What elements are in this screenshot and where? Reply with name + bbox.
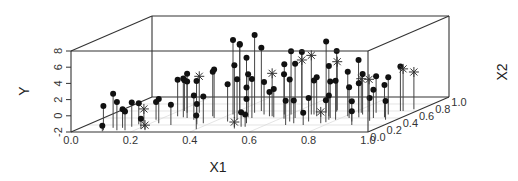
- point-dot-marker: [230, 37, 236, 43]
- point-star-marker: [398, 64, 408, 74]
- point-dot-marker: [381, 82, 387, 88]
- point-dot-marker: [249, 76, 255, 82]
- point-star-marker: [316, 107, 326, 117]
- point-dot-marker: [327, 79, 333, 85]
- point-dot-marker: [271, 86, 277, 92]
- point-dot-marker: [193, 112, 199, 118]
- point-star-marker: [229, 117, 239, 127]
- point-dot-marker: [314, 74, 320, 80]
- point-dot-marker: [333, 78, 339, 84]
- grid-line: [190, 97, 271, 132]
- point-dot-marker: [156, 96, 162, 102]
- point-dot-marker: [356, 80, 362, 86]
- point-dot-marker: [258, 45, 264, 51]
- y-axis-title: Y: [16, 86, 32, 96]
- point-dot-marker: [184, 79, 190, 85]
- point-dot-marker: [168, 102, 174, 108]
- point-star-marker: [267, 68, 277, 78]
- x2-tick-label: 0.6: [419, 110, 434, 122]
- y-tick-label: 8: [52, 48, 64, 54]
- point-dot-marker: [287, 76, 293, 82]
- y-tick-label: 6: [52, 64, 64, 70]
- point-dot-marker: [110, 91, 116, 97]
- point-star-marker: [140, 120, 150, 130]
- scatter3d-chart: -202468 0.00.20.40.60.81.0 0.00.20.40.60…: [0, 0, 518, 181]
- point-star-marker: [297, 55, 307, 65]
- point-dot-marker: [225, 81, 231, 87]
- point-dot-marker: [291, 98, 297, 104]
- point-dot-marker: [114, 99, 120, 105]
- point-dot-marker: [175, 77, 181, 83]
- point-dot-marker: [244, 96, 250, 102]
- point-dot-marker: [122, 109, 128, 115]
- x2-tick-label: 0.2: [387, 124, 402, 136]
- point-dot-marker: [237, 42, 243, 48]
- point-dot-marker: [306, 95, 312, 101]
- point-dot-marker: [356, 57, 362, 63]
- x1-axis-title: X1: [209, 159, 226, 175]
- y-tick-label: 2: [52, 97, 64, 103]
- point-star-marker: [332, 57, 342, 67]
- point-dot-marker: [191, 92, 197, 98]
- point-dot-marker: [349, 108, 355, 114]
- x2-axis-title: X2: [494, 63, 510, 80]
- point-dot-marker: [138, 116, 144, 122]
- point-dot-marker: [281, 61, 287, 67]
- x2-tick-label: 1.0: [451, 96, 466, 108]
- point-dot-marker: [245, 71, 251, 77]
- data-points: [99, 32, 419, 130]
- point-dot-marker: [345, 69, 351, 75]
- x1-tick-label: 0.2: [123, 134, 138, 146]
- point-dot-marker: [383, 98, 389, 104]
- point-dot-marker: [231, 62, 237, 68]
- x2-tick-label: 0.4: [403, 117, 418, 129]
- point-star-marker: [139, 104, 149, 114]
- y-tick-label: -2: [52, 127, 64, 137]
- y-tick-label: 0: [52, 113, 64, 119]
- x1-tick-label: 0.4: [182, 134, 197, 146]
- point-dot-marker: [244, 55, 250, 61]
- point-dot-marker: [360, 71, 366, 77]
- drop-lines: [102, 35, 414, 131]
- point-dot-marker: [373, 73, 379, 79]
- box-back-edges: [71, 16, 449, 132]
- point-dot-marker: [299, 49, 305, 55]
- point-dot-marker: [349, 98, 355, 104]
- point-dot-marker: [211, 66, 217, 72]
- point-dot-marker: [281, 71, 287, 77]
- point-dot-marker: [283, 98, 289, 104]
- point-dot-marker: [252, 32, 258, 38]
- point-dot-marker: [194, 101, 200, 107]
- point-dot-marker: [244, 84, 250, 90]
- point-dot-marker: [100, 103, 106, 109]
- point-dot-marker: [200, 94, 206, 100]
- point-dot-marker: [261, 79, 267, 85]
- point-dot-marker: [346, 84, 352, 90]
- point-dot-marker: [242, 112, 248, 118]
- point-dot-marker: [323, 38, 329, 44]
- x1-tick-label: 0.0: [63, 134, 78, 146]
- x1-axis: 0.00.20.40.60.81.0: [63, 134, 375, 146]
- box-edge: [368, 16, 449, 51]
- point-dot-marker: [234, 76, 240, 82]
- point-dot-marker: [323, 97, 329, 103]
- x1-tick-label: 0.6: [242, 134, 257, 146]
- x1-tick-label: 0.8: [301, 134, 316, 146]
- point-star-marker: [306, 50, 316, 60]
- x2-tick-label: 0.8: [435, 103, 450, 115]
- point-star-marker: [364, 74, 374, 84]
- point-dot-marker: [194, 78, 200, 84]
- x2-tick-label: 0.0: [370, 131, 385, 143]
- point-dot-marker: [326, 63, 332, 69]
- y-axis: -202468: [52, 48, 71, 137]
- point-dot-marker: [99, 123, 105, 129]
- box-edge: [71, 16, 152, 51]
- box-front-edges: [71, 51, 449, 132]
- point-dot-marker: [300, 110, 306, 116]
- point-dot-marker: [385, 74, 391, 80]
- point-star-marker: [409, 67, 419, 77]
- point-dot-marker: [370, 87, 376, 93]
- y-tick-label: 4: [52, 80, 64, 86]
- point-dot-marker: [129, 99, 135, 105]
- point-dot-marker: [292, 61, 298, 67]
